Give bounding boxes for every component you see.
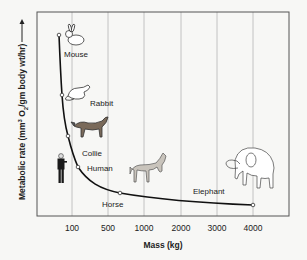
- label-horse: Horse: [102, 200, 124, 209]
- label-rabbit: Rabbit: [90, 99, 114, 108]
- label-human: Human: [87, 164, 113, 173]
- collie-illustration: [71, 117, 108, 137]
- label-collie: Collie: [82, 149, 103, 158]
- label-mouse: Mouse: [64, 50, 89, 59]
- svg-text:100: 100: [65, 223, 79, 233]
- label-elephant: Elephant: [193, 187, 225, 196]
- rabbit-illustration: [65, 85, 90, 100]
- svg-text:4000: 4000: [244, 223, 263, 233]
- svg-text:Metabolic rate (mm3 O2/gm body: Metabolic rate (mm3 O2/gm body wt/hr): [17, 43, 29, 200]
- x-axis-title: Mass (kg): [143, 240, 182, 250]
- mouse-illustration: [66, 24, 85, 45]
- data-points: [57, 33, 255, 207]
- x-tick-labels: 100 500 1000 2000 3000 4000: [65, 223, 263, 233]
- svg-text:3000: 3000: [208, 223, 227, 233]
- point-human: [76, 165, 80, 169]
- y-axis-arrowhead-icon: [20, 19, 25, 24]
- human-illustration: [58, 154, 68, 183]
- point-elephant: [251, 203, 255, 207]
- point-collie: [66, 134, 70, 138]
- svg-text:500: 500: [101, 223, 115, 233]
- point-horse: [118, 191, 122, 195]
- elephant-illustration: [226, 148, 274, 188]
- y-axis-title: Metabolic rate (mm3 O2/gm body wt/hr): [17, 19, 29, 200]
- chart: Mouse Rabbit Collie Human Horse Elephant…: [0, 0, 307, 260]
- point-rabbit: [60, 93, 64, 97]
- svg-text:2000: 2000: [172, 223, 191, 233]
- svg-text:1000: 1000: [135, 223, 154, 233]
- point-mouse: [57, 33, 61, 37]
- metabolic-curve: [59, 35, 253, 205]
- horse-illustration: [130, 153, 166, 182]
